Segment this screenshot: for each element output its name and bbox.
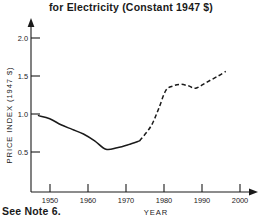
footnote-see-note: See Note 6.	[2, 205, 61, 217]
x-tick-label: 1980	[156, 196, 172, 205]
y-axis-label: PRICE INDEX (1947 $)	[5, 67, 14, 164]
y-axis-tick-labels: 2.0 1.5 1.0 0.5	[18, 34, 28, 157]
y-axis-ticks	[31, 38, 40, 152]
series-projected-line	[140, 71, 226, 140]
x-tick-label: 1990	[194, 196, 210, 205]
y-tick-label: 1.5	[18, 72, 28, 81]
x-tick-label: 1970	[118, 196, 134, 205]
x-axis-label: YEAR	[144, 208, 168, 217]
series-historical-line	[38, 116, 139, 150]
chart-canvas: 2.0 1.5 1.0 0.5 1950 1960 1970 1980 1990…	[0, 0, 262, 221]
x-axis-tick-labels: 1950 1960 1970 1980 1990 2000	[42, 196, 248, 205]
chart-figure: for Electricity (Constant 1947 $) 2.0 1.…	[0, 0, 262, 221]
x-axis-ticks	[50, 184, 240, 192]
y-axis-arrowhead	[28, 18, 35, 27]
x-tick-label: 1950	[42, 196, 58, 205]
y-tick-label: 1.0	[18, 110, 28, 119]
x-tick-label: 2000	[232, 196, 248, 205]
x-axis-arrowhead	[249, 189, 258, 196]
y-tick-label: 0.5	[18, 148, 28, 157]
x-tick-label: 1960	[80, 196, 96, 205]
y-tick-label: 2.0	[18, 34, 28, 43]
